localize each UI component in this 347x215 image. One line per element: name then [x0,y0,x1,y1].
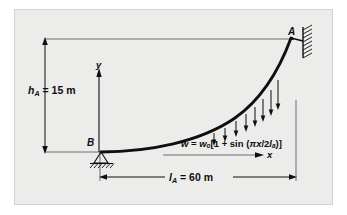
load-formula-label: w = wo[1 + sin (πx/2la)] [181,139,282,150]
x-axis-label: x [267,150,272,160]
wall-hatching [303,25,312,58]
y-axis-label: y [96,60,101,70]
figure-container: hA = 15 m lA = 60 m A B y x w = wo[1 + s… [0,0,347,215]
load-arrow [253,107,258,127]
pin-triangle-icon [94,152,108,163]
load-arrow [276,80,281,110]
height-dimension-label: hA = 15 m [28,85,75,98]
formula-rest: [1 + sin ( [211,138,250,149]
load-arrow [269,90,274,116]
formula-w0: w [199,138,206,149]
height-arrow-down-icon [42,146,48,154]
ground-hatching [90,164,114,169]
formula-close: )] [276,138,282,149]
cable-curve [101,38,291,152]
load-arrow [234,121,239,137]
support-b [90,152,114,168]
height-value: = 15 m [40,84,76,96]
support-a-node [290,37,293,40]
point-a-label: A [288,27,295,37]
height-arrow-up-icon [42,37,48,45]
formula-pi-x: πx [249,138,261,149]
distributed-load-arrows [212,80,281,146]
formula-equals: = [188,138,199,149]
extension-lines [45,39,296,181]
load-arrow [261,99,266,122]
point-b-label: B [87,138,94,148]
x-axis-arrow-icon [255,152,264,157]
span-dimension-label: lA = 60 m [169,172,213,185]
span-value: = 60 m [177,171,213,183]
load-arrow [244,114,249,132]
